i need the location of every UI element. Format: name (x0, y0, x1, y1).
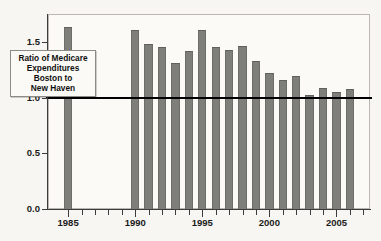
x-axis-minor-tick (175, 210, 176, 215)
x-axis-major-tick (269, 210, 270, 217)
x-axis-minor-tick (189, 210, 190, 215)
x-axis-major-tick (68, 210, 69, 217)
bar (265, 73, 273, 209)
x-axis-minor-tick (256, 210, 257, 215)
bar (225, 50, 233, 209)
x-axis-minor-tick (229, 210, 230, 215)
x-axis-minor-tick (216, 210, 217, 215)
bar (144, 44, 152, 209)
x-axis-minor-tick (122, 210, 123, 215)
bar (212, 47, 220, 209)
x-axis-minor-tick (363, 210, 364, 215)
y-axis-tick-label: 0.5 (0, 148, 40, 158)
x-axis-minor-tick (323, 210, 324, 215)
chart-figure: 0.00.51.01.5 19851990199520002005 Ratio … (0, 0, 381, 241)
annotation-line-4: New Haven (13, 83, 93, 93)
bar (305, 95, 313, 209)
bar (332, 92, 340, 209)
x-axis-minor-tick (149, 210, 150, 215)
x-axis-tick-label: 2005 (316, 218, 356, 228)
y-axis-tick (42, 209, 47, 210)
x-axis-tick-label: 1995 (182, 218, 222, 228)
x-axis-major-tick (202, 210, 203, 217)
annotation-line-1: Ratio of Medicare (13, 53, 93, 63)
x-axis-major-tick (135, 210, 136, 217)
x-axis-minor-tick (310, 210, 311, 215)
y-axis-tick-labels: 0.00.51.01.5 (0, 0, 40, 241)
x-axis-minor-tick (162, 210, 163, 215)
x-axis-minor-tick (82, 210, 83, 215)
annotation-line-2: Expenditures (13, 63, 93, 73)
x-axis-minor-tick (296, 210, 297, 215)
y-axis-tick (42, 153, 47, 154)
bar (346, 89, 354, 209)
bar (158, 47, 166, 209)
bar (171, 63, 179, 209)
y-axis-tick-label: 1.5 (0, 37, 40, 47)
y-axis-tick-label: 0.0 (0, 204, 40, 214)
bar (198, 30, 206, 209)
y-axis-tick (42, 42, 47, 43)
x-axis-tick-label: 1985 (48, 218, 88, 228)
x-axis-minor-tick (95, 210, 96, 215)
y-axis-tick (42, 98, 47, 99)
x-axis-minor-tick (350, 210, 351, 215)
x-axis-tick-label: 2000 (249, 218, 289, 228)
x-axis-major-tick (336, 210, 337, 217)
bar (319, 88, 327, 209)
annotation-callout: Ratio of Medicare Expenditures Boston to… (10, 50, 96, 97)
bar (131, 30, 139, 209)
bar (279, 80, 287, 209)
bar (238, 46, 246, 209)
bar (185, 51, 193, 209)
x-axis-tick-label: 1990 (115, 218, 155, 228)
x-axis-minor-tick (283, 210, 284, 215)
bar (252, 61, 260, 209)
annotation-line-3: Boston to (13, 73, 93, 83)
x-axis-minor-tick (108, 210, 109, 215)
bar-series (48, 14, 370, 209)
y-axis-line (47, 14, 48, 210)
x-axis-minor-tick (243, 210, 244, 215)
